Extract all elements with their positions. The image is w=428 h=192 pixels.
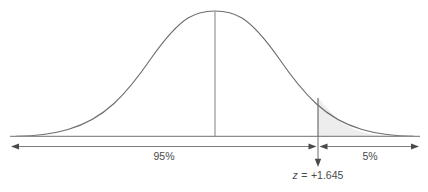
left-region-label: 95% — [153, 150, 174, 162]
svg-text:z=+1.645: z=+1.645 — [292, 169, 344, 181]
normal-distribution-figure: 95% 5% z=+1.645 — [0, 0, 428, 192]
critical-value-pointer-arrow — [315, 136, 321, 167]
critical-value-symbol: z — [292, 169, 299, 181]
critical-value-equals: = — [301, 169, 307, 181]
critical-value-number: +1.645 — [311, 169, 344, 181]
right-region-label: 5% — [362, 150, 377, 162]
distribution-svg: 95% 5% z=+1.645 — [0, 0, 428, 192]
critical-value-label: z=+1.645 — [292, 169, 344, 181]
